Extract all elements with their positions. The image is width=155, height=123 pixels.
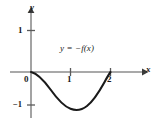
figure-container: y x 1 −1 0 1 2 y = −f(x) <box>0 0 155 123</box>
tick-label-y-1: 1 <box>18 26 23 35</box>
tick-label-x-0: 0 <box>24 75 29 84</box>
tick-label-y-minus-1: −1 <box>13 100 22 109</box>
y-axis-label: y <box>30 3 34 12</box>
tick-label-x-1: 1 <box>67 75 72 84</box>
equation-annotation: y = −f(x) <box>60 44 94 53</box>
plot-canvas <box>0 0 155 123</box>
x-axis-label: x <box>146 65 151 74</box>
tick-label-x-2: 2 <box>107 75 112 84</box>
